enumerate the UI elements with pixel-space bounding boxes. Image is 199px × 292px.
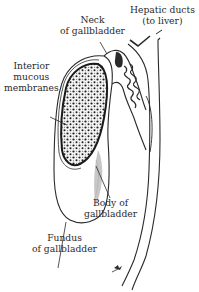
diagram-drawing bbox=[0, 0, 199, 292]
leader-neck bbox=[100, 42, 107, 54]
gallbladder-diagram: Hepatic ducts (to liver) Neck of gallbla… bbox=[0, 0, 199, 292]
label-body: Body of gallbladder bbox=[84, 197, 137, 219]
label-neck: Neck of gallbladder bbox=[60, 14, 125, 36]
label-interior-mucous-membranes: Interior mucous membranes bbox=[4, 60, 59, 93]
bile-ducts bbox=[112, 30, 162, 290]
label-hepatic-ducts: Hepatic ducts (to liver) bbox=[130, 4, 195, 26]
label-fundus: Fundus of gallbladder bbox=[32, 232, 97, 254]
